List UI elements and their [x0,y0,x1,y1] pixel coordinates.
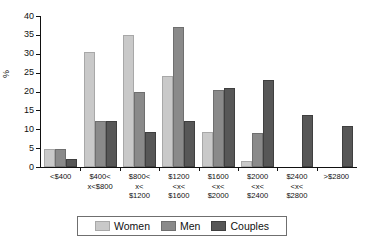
bar-women [44,149,55,167]
legend-label: Men [180,220,200,232]
bar-couples [342,126,353,167]
bar-group [41,16,80,167]
y-axis-tick-label: 15 [12,106,34,115]
bar-couples [66,159,77,167]
bar-couples [145,132,156,167]
bar-group [199,16,238,167]
bar-women [84,52,95,167]
bar-group [80,16,119,167]
legend-label: Couples [230,220,269,232]
bar-women [162,76,173,167]
bar-group [238,16,277,167]
x-axis-tick-labels: <$400$400<x<$800$800<x<$1200$1200<x<$160… [41,171,356,211]
legend-item[interactable]: Women [95,220,150,232]
bar-women [202,132,213,167]
y-axis-tick-label: 35 [12,30,34,39]
bar-men [95,121,106,167]
y-axis-tick-label: 30 [12,49,34,58]
bar-couples [302,115,313,167]
x-axis-tick-label: $1200<x<$1600 [159,171,198,211]
bar-couples [106,121,117,167]
y-axis-tick-label: 0 [12,163,34,172]
y-axis-tick-label: 20 [12,87,34,96]
legend-item[interactable]: Men [161,220,200,232]
bar-group [317,16,356,167]
x-axis-tick-label: <$400 [41,171,80,211]
bar-women [123,35,134,167]
x-axis-tick-label: $1600<x<$2000 [199,171,238,211]
bar-men [213,90,224,167]
bar-group [120,16,159,167]
bar-men [252,133,263,167]
legend-swatch-men [161,221,176,231]
x-axis-tick-label: $800<x<$1200 [120,171,159,211]
bar-couples [263,80,274,167]
legend-label: Women [114,220,150,232]
bar-couples [224,88,235,167]
y-axis-tick-label: 10 [12,125,34,134]
bar-men [55,149,66,167]
bar-group [277,16,316,167]
y-axis-tick-label: 40 [12,12,34,21]
x-axis-tick-label: $2400<x<$2800 [277,171,316,211]
bar-men [134,92,145,168]
bar-group [159,16,198,167]
bar-men [173,27,184,167]
bar-groups [41,16,356,167]
chart-legend: WomenMenCouples [77,216,287,236]
x-axis-tick-label: $400<x<$800 [80,171,119,211]
legend-swatch-women [95,221,110,231]
y-axis-tick-label: 25 [12,68,34,77]
legend-swatch-couples [211,221,226,231]
bar-chart: % 4035302520151050 <$400$400<x<$800$800<… [0,0,365,245]
legend-item[interactable]: Couples [211,220,269,232]
y-axis-tick-label: 5 [12,144,34,153]
x-axis-tick-label: >$2800 [317,171,356,211]
x-axis-tick-label: $2000<x<$2400 [238,171,277,211]
bar-couples [184,121,195,167]
y-axis-tick-labels: 4035302520151050 [10,0,34,245]
